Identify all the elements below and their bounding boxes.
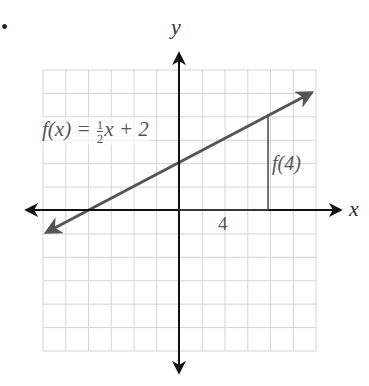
f4-label: f(4): [272, 152, 301, 175]
coordinate-plane: [0, 0, 369, 386]
function-rhs: x + 2: [104, 117, 149, 141]
x-axis-label: x: [349, 196, 359, 222]
function-lhs: f(x) =: [42, 117, 96, 141]
fraction-denominator: 2: [97, 132, 104, 145]
fraction: 12: [97, 118, 104, 145]
y-axis-label: y: [171, 14, 181, 40]
bullet: •: [1, 16, 8, 39]
tick-label-4: 4: [218, 213, 228, 235]
function-label: f(x) = 12x + 2: [42, 117, 149, 145]
fraction-numerator: 1: [97, 118, 104, 132]
